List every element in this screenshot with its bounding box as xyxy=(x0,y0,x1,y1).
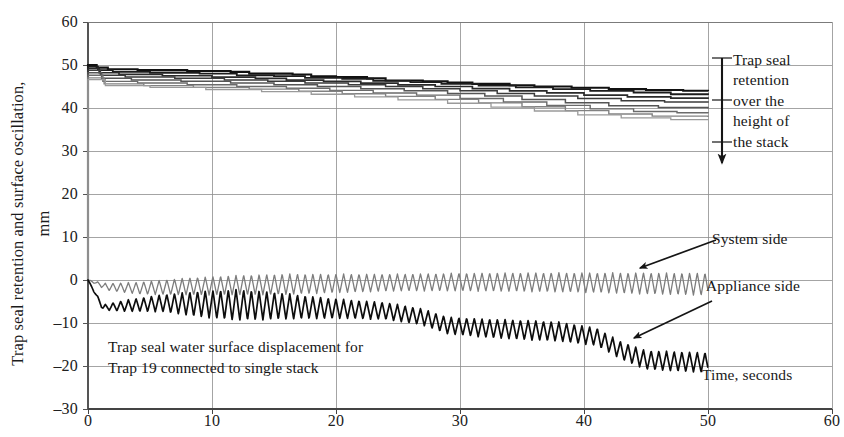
y-tick-label: 10 xyxy=(32,228,78,246)
appliance-side-arrow xyxy=(634,301,712,338)
annotation-system-side: System side xyxy=(712,229,788,249)
oscillation-trace-system-side xyxy=(88,273,708,295)
x-axis-tick-labels: 0102030405060 xyxy=(0,412,844,436)
chart-figure: Trap seal retention and surface oscillat… xyxy=(0,0,844,437)
y-tick-label: 20 xyxy=(32,185,78,203)
x-tick-label: 20 xyxy=(306,412,366,430)
x-tick-label: 40 xyxy=(554,412,614,430)
retention-trace-8 xyxy=(88,80,708,280)
x-tick-label: 30 xyxy=(430,412,490,430)
x-tick-label: 60 xyxy=(802,412,844,430)
x-tick-label: 0 xyxy=(58,412,118,430)
retention-trace-5 xyxy=(88,73,708,280)
y-tick-label: 50 xyxy=(32,56,78,74)
retention-trace-4 xyxy=(88,70,708,280)
x-tick-label: 50 xyxy=(678,412,738,430)
retention-traces xyxy=(88,65,708,280)
x-axis-title: Time, seconds xyxy=(702,366,792,384)
system-side-arrow xyxy=(640,240,716,268)
y-tick-label: 40 xyxy=(32,99,78,117)
y-tick-label: 0 xyxy=(32,271,78,289)
y-tick-label: 60 xyxy=(32,13,78,31)
y-axis-tick-labels: 6050403020100–10–20–30 xyxy=(32,0,78,437)
x-tick-label: 10 xyxy=(182,412,242,430)
y-tick-label: –10 xyxy=(32,314,78,332)
y-tick-label: –20 xyxy=(32,357,78,375)
annotation-caption: Trap seal water surface displacement for… xyxy=(108,336,363,379)
annotation-appliance-side: Appliance side xyxy=(706,276,800,296)
y-tick-label: 30 xyxy=(32,142,78,160)
annotation-trap-seal-retention: Trap seal retention over the height of t… xyxy=(733,50,838,152)
